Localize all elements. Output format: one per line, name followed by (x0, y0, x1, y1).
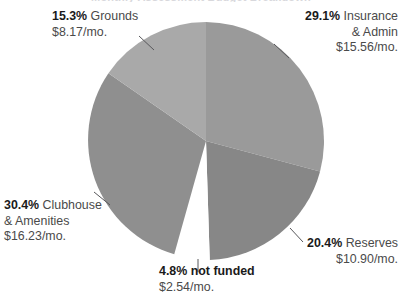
callout-clubhouse-category-line2: & Amenities (4, 214, 102, 230)
callout-grounds-amount: $8.17/mo. (52, 25, 138, 41)
callout-not-funded-percent: 4.8% (159, 264, 187, 278)
callout-insurance-percent: 29.1% (305, 9, 340, 23)
pie-graphic (87, 22, 325, 260)
callout-not-funded-amount: $2.54/mo. (159, 280, 255, 296)
callout-grounds: 15.3% Grounds $8.17/mo. (52, 9, 138, 40)
pie-svg (87, 22, 325, 260)
pie-chart-figure: Monthly Assessment Budget Breakdown (0, 0, 402, 298)
callout-grounds-percent: 15.3% (52, 9, 87, 23)
callout-clubhouse-percent: 30.4% (4, 198, 39, 212)
callout-clubhouse-amount: $16.23/mo. (4, 229, 102, 245)
callout-clubhouse-category: Clubhouse (39, 198, 102, 212)
callout-reserves-percent: 20.4% (307, 236, 342, 250)
callout-reserves: 20.4% Reserves $10.90/mo. (307, 236, 398, 267)
callout-insurance-category-line2: & Admin (305, 25, 398, 41)
callout-not-funded-category: not funded (187, 264, 254, 278)
callout-grounds-category: Grounds (87, 9, 138, 23)
callout-reserves-amount: $10.90/mo. (307, 252, 398, 268)
callout-insurance: 29.1% Insurance & Admin $15.56/mo. (305, 9, 398, 56)
callout-reserves-category: Reserves (342, 236, 398, 250)
callout-not-funded: 4.8% not funded $2.54/mo. (159, 264, 255, 295)
callout-insurance-category: Insurance (340, 9, 398, 23)
chart-title-cropped: Monthly Assessment Budget Breakdown (0, 0, 402, 2)
callout-insurance-amount: $15.56/mo. (305, 40, 398, 56)
callout-clubhouse: 30.4% Clubhouse & Amenities $16.23/mo. (4, 198, 102, 245)
